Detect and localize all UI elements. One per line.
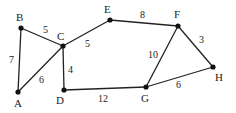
node-g [143,84,148,89]
node-h [210,64,215,69]
edge-weight-d-g: 12 [98,93,108,104]
edge-weight-f-h: 3 [199,34,204,45]
edge-weight-e-f: 8 [140,9,145,20]
node-e [107,17,112,22]
node-label-g: G [141,92,149,104]
node-label-a: A [14,97,22,109]
edge-d-g [64,87,146,90]
node-label-c: C [57,30,64,42]
edge-f-h [178,26,213,67]
edge-a-c [18,46,63,92]
node-c [60,43,65,48]
node-label-h: H [215,71,223,83]
node-a [15,89,20,94]
edge-weight-a-b: 7 [9,54,14,65]
edge-label-group: 756458121036 [9,9,204,104]
node-d [61,87,66,92]
node-label-e: E [104,3,111,15]
edge-weight-b-c: 5 [43,24,48,35]
node-label-b: B [16,11,23,23]
edge-weight-f-g: 10 [148,49,158,60]
node-label-d: D [56,94,64,106]
node-f [175,23,180,28]
edge-weight-c-e: 5 [85,38,90,49]
node-label-f: F [174,8,180,20]
edge-weight-c-d: 4 [68,64,73,75]
edge-e-f [110,20,178,26]
edge-c-d [63,46,64,90]
node-b [18,25,23,30]
edge-weight-a-c: 6 [39,74,44,85]
edge-weight-g-h: 6 [176,79,181,90]
node-label-group: ABCDEFGH [14,3,223,109]
graph-diagram: 756458121036 ABCDEFGH [0,0,236,113]
edge-a-b [18,28,21,92]
